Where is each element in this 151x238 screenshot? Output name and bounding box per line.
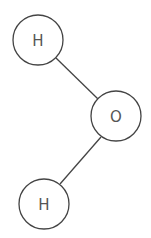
molecule-diagram: H O H (0, 0, 151, 238)
bond-h1-o (56, 58, 98, 99)
bond-o-h2 (60, 137, 101, 184)
atom-label: H (32, 32, 43, 50)
atom-label: H (38, 196, 49, 214)
atom-o: O (91, 91, 141, 141)
atom-h2: H (19, 179, 69, 229)
atom-label: O (110, 108, 122, 126)
atom-h1: H (13, 15, 63, 65)
